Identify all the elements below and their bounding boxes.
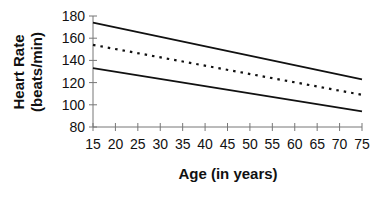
- x-tick-label: 55: [265, 136, 281, 152]
- svg-text:(beats/min): (beats/min): [28, 32, 45, 112]
- y-tick-label: 160: [62, 30, 86, 46]
- x-axis-title: Age (in years): [178, 165, 277, 182]
- x-tick-label: 75: [354, 136, 370, 152]
- x-tick-label: 40: [197, 136, 213, 152]
- x-tick-label: 15: [85, 136, 101, 152]
- y-axis: 80100120140160180: [62, 8, 97, 135]
- x-tick-label: 60: [287, 136, 303, 152]
- heart-rate-chart: 80100120140160180 1520253035404550556065…: [0, 0, 390, 199]
- x-tick-label: 35: [175, 136, 191, 152]
- y-axis-title: Heart Rate (beats/min): [10, 32, 45, 112]
- x-tick-label: 70: [332, 136, 348, 152]
- x-tick-label: 45: [220, 136, 236, 152]
- x-tick-label: 50: [242, 136, 258, 152]
- y-tick-label: 100: [62, 97, 86, 113]
- x-axis: 15202530354045505560657075: [85, 123, 370, 152]
- x-tick-label: 30: [152, 136, 168, 152]
- svg-text:Heart Rate: Heart Rate: [10, 34, 27, 109]
- series-lines: [93, 23, 362, 112]
- x-tick-label: 65: [309, 136, 325, 152]
- series-line-middle: [93, 45, 362, 95]
- y-tick-label: 140: [62, 52, 86, 68]
- series-line-lower: [93, 68, 362, 111]
- y-tick-label: 180: [62, 8, 86, 24]
- x-tick-label: 25: [130, 136, 146, 152]
- x-tick-label: 20: [108, 136, 124, 152]
- y-tick-label: 80: [69, 119, 85, 135]
- y-tick-label: 120: [62, 75, 86, 91]
